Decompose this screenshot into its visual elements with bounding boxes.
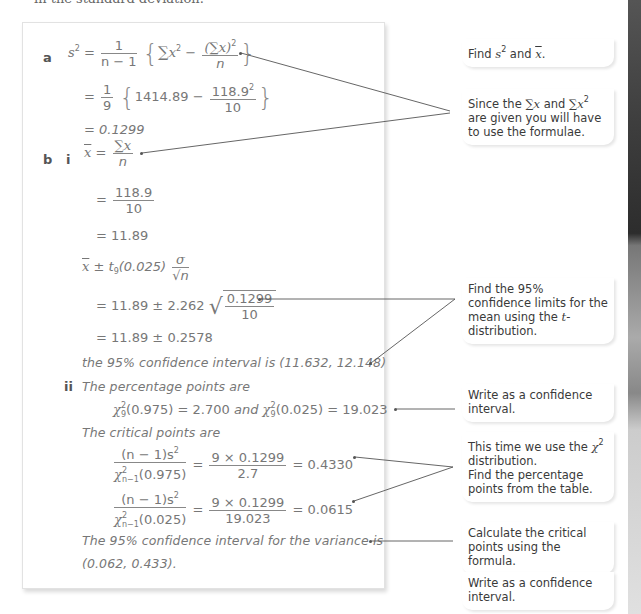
percentage-points-intro: The percentage points are bbox=[82, 379, 250, 394]
part-b-ii-label: ii bbox=[64, 379, 73, 394]
xbar-result: = 11.89 bbox=[96, 228, 148, 243]
part-b-i-label: i bbox=[66, 152, 70, 167]
critical-points-intro: The critical points are bbox=[82, 425, 220, 440]
variance-ci-value: (0.062, 0.433). bbox=[82, 556, 177, 571]
part-a-line1: s2 = 1n − 1 {∑x2 − (∑x)2n} bbox=[68, 36, 256, 71]
part-a-result: = 0.1299 bbox=[84, 122, 145, 137]
xbar-substitution: = 118.910 bbox=[96, 185, 156, 216]
ci-substitution: = 11.89 ± 2.262 √0.129910 bbox=[96, 290, 276, 322]
note-write-ci-2: Write as a confidence interval. bbox=[462, 572, 614, 610]
critical-point-lower: (n − 1)s2χ2n−1(0.025) = 9 × 0.129919.023… bbox=[112, 488, 353, 532]
note-find-95-limits: Find the 95% confidence limits for the m… bbox=[462, 278, 614, 344]
connector-dot-b4 bbox=[394, 408, 397, 411]
connector-dot-b6 bbox=[352, 500, 355, 503]
ci-statement: the 95% confidence interval is (11.632, … bbox=[82, 355, 386, 370]
connector-dot-a1 bbox=[239, 52, 242, 55]
note-chi2-distribution: This time we use the χ2 distribution.Fin… bbox=[462, 432, 614, 502]
note-write-ci-1: Write as a confidence interval. bbox=[462, 384, 614, 422]
ci-formula: x ± t9(0.025) σ√n bbox=[82, 252, 191, 283]
note-find-s2-xbar: Find s2 and x. bbox=[462, 39, 614, 67]
connector-dot-b5 bbox=[353, 456, 356, 459]
connector-dot-b1 bbox=[140, 152, 143, 155]
part-b-label: b bbox=[43, 152, 52, 167]
xbar-formula: x = ∑xn bbox=[84, 138, 135, 169]
part-a-label: a bbox=[43, 50, 52, 65]
critical-point-upper: (n − 1)s2χ2n−1(0.975) = 9 × 0.12992.7 = … bbox=[112, 443, 353, 487]
connector-dot-b2 bbox=[258, 298, 261, 301]
part-a-line2: = 19 {1414.89 − 118.9210} bbox=[84, 80, 273, 115]
decorative-photo-strip bbox=[628, 0, 641, 614]
connector-dot-b3 bbox=[369, 362, 372, 365]
variance-ci-statement: The 95% confidence interval for the vari… bbox=[82, 533, 383, 548]
chi-square-values: χ29(0.975) = 2.700 and χ29(0.025) = 19.0… bbox=[113, 401, 388, 419]
ci-simplified: = 11.89 ± 0.2578 bbox=[96, 330, 213, 345]
clipped-header-text: in the standard deviation. bbox=[34, 0, 204, 6]
note-since-sums-given: Since the ∑x and ∑x2 are given you will … bbox=[462, 89, 614, 145]
connector-dot-b7 bbox=[369, 540, 372, 543]
note-calc-critical: Calculate the critical points using the … bbox=[462, 522, 614, 574]
